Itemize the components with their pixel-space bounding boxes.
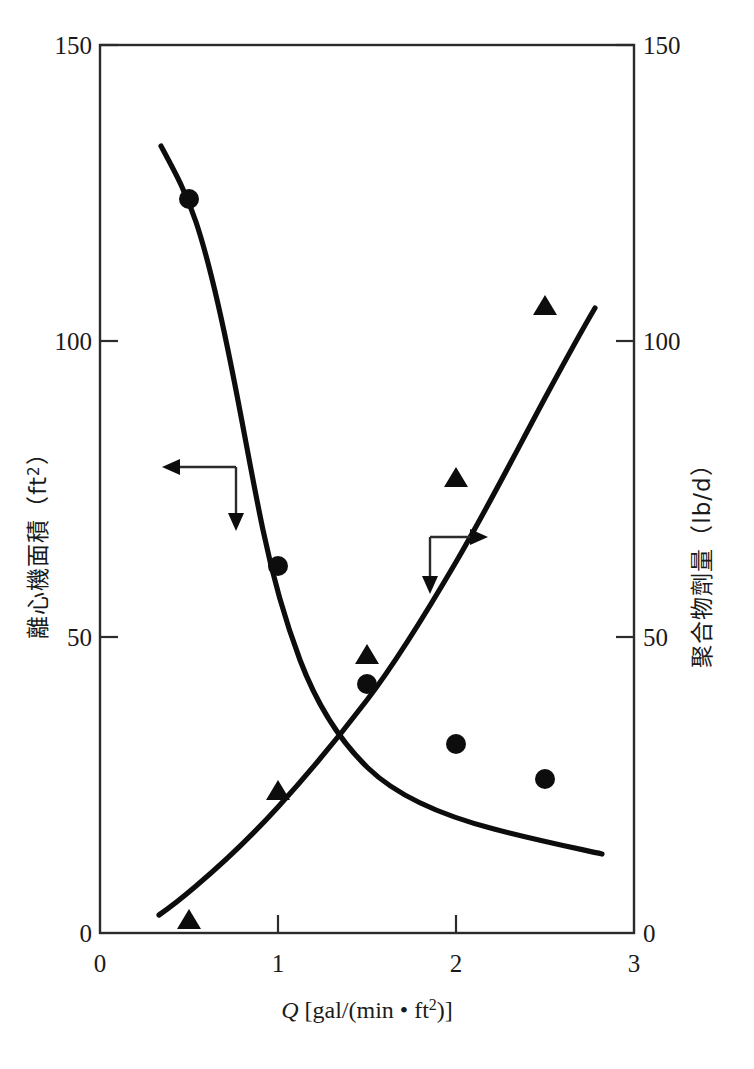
data-point-triangle-2 [355, 644, 379, 664]
series-curve-polymer-dose [159, 308, 595, 915]
chart-figure: 150 100 50 0 150 100 50 0 0 1 2 3 Q [gal… [0, 0, 754, 1069]
y-axis-left-tick-100: 100 [55, 328, 93, 355]
y-axis-right-tick-150: 150 [643, 32, 681, 59]
y-axis-left-tick-50: 50 [67, 624, 92, 651]
chart-svg: 150 100 50 0 150 100 50 0 0 1 2 3 Q [gal… [0, 0, 754, 1069]
y-axis-left-tick-0: 0 [80, 920, 93, 947]
data-point-triangle-0 [177, 909, 201, 929]
svg-text:聚合物劑量（lb/d）: 聚合物劑量（lb/d） [689, 452, 715, 667]
x-axis-tick-3: 3 [628, 950, 641, 977]
x-axis-ticks [278, 915, 456, 933]
y-axis-right-tick-0: 0 [643, 920, 656, 947]
y-axis-left-title: 離心機面積（ft2） [25, 441, 51, 638]
data-point-triangle-1 [266, 780, 290, 800]
data-point-circle-0 [179, 189, 199, 209]
x-axis-tick-1: 1 [272, 950, 285, 977]
x-axis-tick-0: 0 [94, 950, 107, 977]
svg-text:Q [gal/(min • ft2)]: Q [gal/(min • ft2)] [281, 996, 453, 1023]
y-axis-right-title: 聚合物劑量（lb/d） [689, 452, 715, 667]
y-axis-right-tick-100: 100 [643, 328, 681, 355]
series-curve-centrifuge-area [161, 146, 602, 854]
x-axis-title-symbol: Q [281, 997, 298, 1023]
data-point-circle-3 [446, 734, 466, 754]
y-axis-right-ticks [616, 45, 634, 637]
x-axis-tick-2: 2 [450, 950, 463, 977]
y-axis-left-tick-150: 150 [55, 32, 93, 59]
data-point-triangle-4 [533, 295, 557, 315]
data-point-circle-1 [268, 556, 288, 576]
y-axis-right-tick-50: 50 [643, 624, 668, 651]
x-axis-title: Q [gal/(min • ft2)] [281, 996, 453, 1023]
data-point-triangle-3 [444, 467, 468, 487]
svg-text:離心機面積（ft2）: 離心機面積（ft2） [25, 441, 51, 638]
y-axis-left-ticks [100, 45, 118, 637]
annotation-left-axis-pointer [162, 459, 244, 531]
data-point-circle-4 [535, 769, 555, 789]
